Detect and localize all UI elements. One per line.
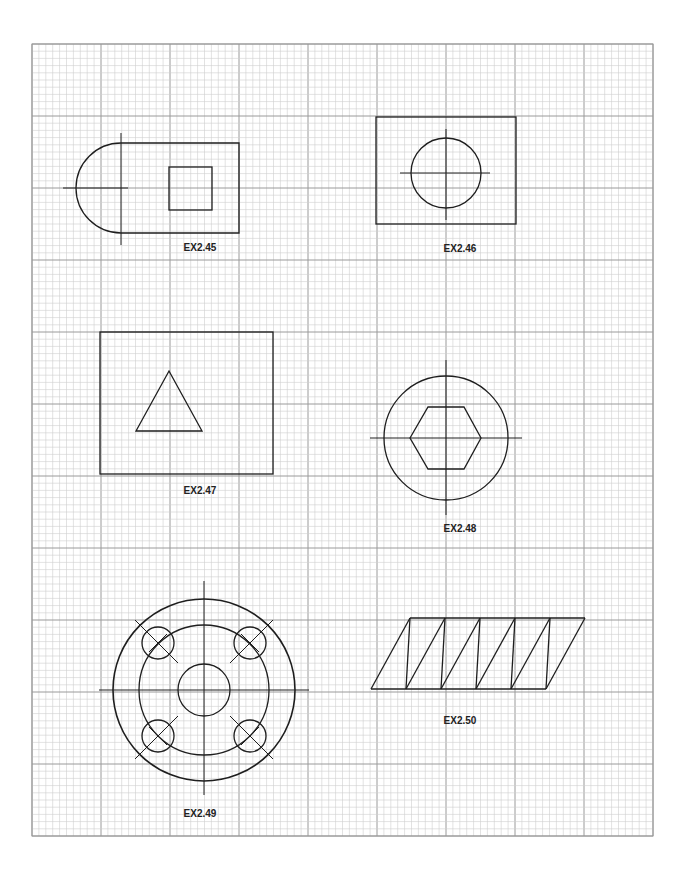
- triangle-cutout: [136, 371, 202, 431]
- diagonal-3: [476, 618, 515, 689]
- diagonal-2: [441, 618, 480, 689]
- figure-ex2-48: [370, 360, 522, 515]
- label-ex2-45: EX2.45: [184, 242, 217, 253]
- figure-ex2-46: [376, 117, 516, 224]
- vertical-3: [476, 618, 480, 689]
- right-edge: [546, 618, 585, 689]
- label-ex2-50: EX2.50: [444, 715, 477, 726]
- label-ex2-49: EX2.49: [184, 808, 217, 819]
- vertical-1: [406, 618, 410, 689]
- label-ex2-46: EX2.46: [444, 243, 477, 254]
- label-ex2-48: EX2.48: [444, 523, 477, 534]
- vertical-4: [511, 618, 515, 689]
- vertical-2: [441, 618, 445, 689]
- figure-ex2-50: [371, 618, 585, 689]
- figure-ex2-45: [63, 133, 239, 245]
- diagonal-4: [511, 618, 550, 689]
- figure-ex2-47: [100, 332, 273, 474]
- graph-paper-sheet: EX2.45 EX2.46 EX2.47 EX2.48 EX2.49 EX2.5…: [0, 0, 688, 872]
- grid: [32, 44, 653, 836]
- label-ex2-47: EX2.47: [184, 485, 217, 496]
